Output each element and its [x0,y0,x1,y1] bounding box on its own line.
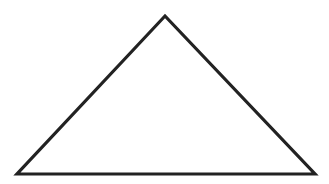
diagram-canvas [0,0,329,184]
triangle-diagram [0,0,329,184]
triangle-shape [17,16,315,174]
